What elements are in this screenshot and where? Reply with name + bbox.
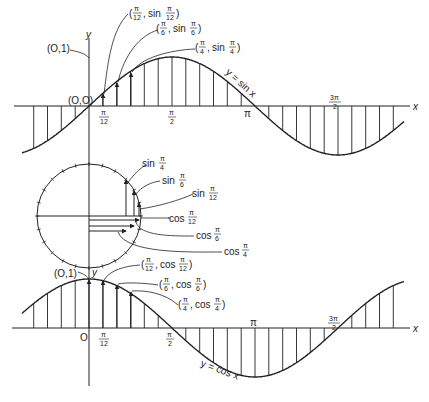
cosine-origin-label: O: [80, 332, 88, 343]
cos-tick-pi: π: [250, 317, 257, 328]
svg-text:π: π: [189, 209, 194, 216]
svg-text:): ): [176, 8, 179, 19]
label-cos-pi6: cos π 6: [196, 226, 221, 242]
svg-text:6: 6: [191, 29, 195, 36]
svg-text:π: π: [167, 5, 172, 12]
cosine-x-axis-label: x: [412, 323, 419, 334]
cos-tick-3pi2-den: 2: [332, 324, 336, 331]
svg-text:,: ,: [207, 42, 210, 53]
leader-yint-top: [70, 50, 89, 58]
label-cos-pi4: cos π 4: [224, 242, 249, 258]
svg-text:4: 4: [230, 48, 234, 55]
label-sin-pi12: sin π 12: [192, 185, 218, 201]
svg-text:cos: cos: [176, 279, 192, 290]
svg-text:sin: sin: [148, 8, 161, 19]
circle-labels: sin π 4 sin π 6 sin π 12 cos π 12 cos π …: [142, 155, 249, 258]
svg-text:(: (: [156, 23, 160, 34]
svg-text:(: (: [159, 279, 163, 290]
svg-text:π: π: [230, 39, 235, 46]
svg-text:,: ,: [171, 279, 174, 290]
svg-text:): ): [189, 259, 192, 270]
cos-tick-pi2-num: π: [167, 331, 172, 338]
sine-x-axis-label: x: [412, 101, 419, 112]
svg-text:4: 4: [160, 164, 164, 171]
svg-text:π: π: [180, 172, 185, 179]
svg-text:π: π: [183, 296, 188, 303]
svg-text:6: 6: [164, 285, 168, 292]
svg-text:π: π: [164, 276, 169, 283]
label-sin-pi6: sin π 6: [162, 172, 186, 188]
svg-text:π: π: [191, 20, 196, 27]
svg-text:12: 12: [179, 265, 187, 272]
cosine-y-axis-label: y: [91, 267, 98, 278]
svg-text:): ): [222, 299, 225, 310]
sine-origin-label: (O,O): [68, 95, 93, 106]
svg-text:π: π: [146, 256, 151, 263]
svg-text:sin: sin: [142, 158, 155, 169]
svg-text:(: (: [178, 299, 182, 310]
svg-text:6: 6: [196, 285, 200, 292]
svg-text:cos: cos: [224, 246, 240, 257]
svg-text:π: π: [160, 155, 165, 162]
svg-text:6: 6: [215, 235, 219, 242]
svg-text:π: π: [200, 39, 205, 46]
sine-cosine-unit-circle-diagram: y x (O,1) (O,O) π 12 π 2 π 3π 2 y = sin …: [0, 0, 429, 402]
annotation-cos-pi12: ( π 12 , cos π 12 ): [141, 256, 192, 272]
svg-text:cos: cos: [196, 230, 212, 241]
annotation-cos-pi6: ( π 6 , cos π 6 ): [159, 276, 206, 292]
tick-3pi2-den: 2: [333, 103, 337, 110]
annotation-sin-pi6: ( π 6 , sin π 6 ): [156, 20, 201, 36]
svg-text:sin: sin: [192, 188, 205, 199]
svg-text:sin: sin: [212, 42, 225, 53]
tick-pi: π: [244, 108, 251, 119]
svg-text:π: π: [161, 20, 166, 27]
svg-text:): ): [198, 23, 201, 34]
sine-labels: y x (O,1) (O,O) π 12 π 2 π 3π 2 y = sin …: [47, 5, 419, 125]
cos-tick-pi2-den: 2: [168, 340, 172, 347]
label-sin-pi4: sin π 4: [142, 155, 166, 171]
svg-text:12: 12: [188, 218, 196, 225]
svg-text:4: 4: [200, 48, 204, 55]
tick-pi2-den: 2: [170, 118, 174, 125]
svg-text:sin: sin: [162, 175, 175, 186]
leader-sin-pi6: [118, 30, 158, 82]
annotation-sin-pi12: ( π 12 , sin π 12 ): [129, 5, 179, 21]
svg-text:cos: cos: [160, 259, 176, 270]
tick-3pi2-num: 3π: [330, 94, 339, 101]
svg-text:,: ,: [143, 8, 146, 19]
svg-text:(: (: [195, 42, 199, 53]
svg-text:,: ,: [190, 299, 193, 310]
svg-text:4: 4: [215, 305, 219, 312]
svg-text:12: 12: [133, 14, 141, 21]
svg-text:π: π: [196, 276, 201, 283]
svg-text:π: π: [134, 5, 139, 12]
svg-text:12: 12: [166, 14, 174, 21]
sine-y-axis-label: y: [85, 29, 92, 40]
svg-text:,: ,: [168, 23, 171, 34]
tick-pi12-den: 12: [100, 118, 108, 125]
sine-y-intercept-label: (O,1): [47, 43, 70, 54]
svg-text:cos: cos: [195, 299, 211, 310]
cosine-y-intercept-label: (O,1): [54, 268, 77, 279]
svg-text:12: 12: [209, 194, 217, 201]
svg-text:,: ,: [155, 259, 158, 270]
cos-tick-pi12-num: π: [101, 331, 106, 338]
svg-text:): ): [237, 42, 240, 53]
svg-text:π: π: [180, 256, 185, 263]
cosine-curve-label: y = cos x: [199, 358, 240, 382]
tick-pi12-num: π: [101, 109, 106, 116]
tick-pi2-num: π: [169, 109, 174, 116]
svg-text:): ): [203, 279, 206, 290]
unit-circle: [35, 162, 222, 270]
annotation-cos-pi4: ( π 4 , cos π 4 ): [178, 296, 225, 312]
cos-tick-3pi2-num: 3π: [329, 315, 338, 322]
svg-text:π: π: [215, 226, 220, 233]
svg-text:π: π: [243, 242, 248, 249]
cos-tick-pi12-den: 12: [100, 340, 108, 347]
svg-text:cos: cos: [169, 213, 185, 224]
svg-text:12: 12: [145, 265, 153, 272]
svg-text:6: 6: [161, 29, 165, 36]
svg-text:π: π: [215, 296, 220, 303]
svg-text:6: 6: [180, 181, 184, 188]
sine-graph: [14, 14, 410, 160]
